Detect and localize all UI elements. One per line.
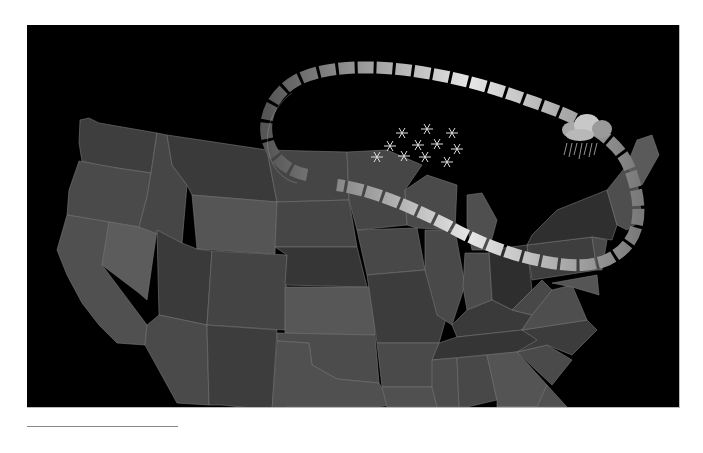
states-east bbox=[432, 135, 659, 407]
snowflake-icon bbox=[441, 157, 453, 167]
state-arkansas[interactable] bbox=[377, 343, 439, 387]
state-iowa[interactable] bbox=[357, 228, 425, 275]
state-nebraska[interactable] bbox=[275, 247, 367, 287]
footnote-rule bbox=[27, 426, 178, 427]
state-south-dakota[interactable] bbox=[275, 200, 357, 247]
states-west bbox=[57, 118, 287, 407]
state-colorado[interactable] bbox=[207, 251, 287, 330]
us-map bbox=[27, 25, 679, 407]
snowflake-icon bbox=[384, 141, 396, 151]
state-wyoming[interactable] bbox=[192, 195, 277, 254]
snowflake-icon bbox=[421, 124, 433, 134]
state-new-mexico[interactable] bbox=[207, 325, 277, 407]
state-new-york[interactable] bbox=[527, 190, 617, 245]
snowflake-icon bbox=[396, 128, 408, 138]
state-arizona[interactable] bbox=[145, 315, 209, 405]
snowflake-icon bbox=[412, 140, 424, 150]
state-louisiana[interactable] bbox=[382, 387, 437, 407]
state-mississippi[interactable] bbox=[432, 358, 459, 407]
map-panel bbox=[27, 25, 680, 408]
snowflake-icon bbox=[431, 139, 443, 149]
snowflake-icon bbox=[446, 128, 458, 138]
snowflake-icon bbox=[451, 144, 463, 154]
snowflake-icon bbox=[419, 152, 431, 162]
state-kansas[interactable] bbox=[285, 287, 375, 335]
